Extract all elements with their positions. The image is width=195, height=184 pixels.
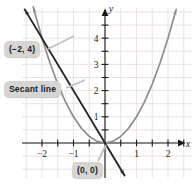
svg-text:2: 2 [94,86,99,96]
svg-text:2: 2 [166,149,171,159]
x-axis-label: x [185,138,191,149]
axis-ticks [42,25,184,146]
callout-secant-line: Secant line [4,81,61,97]
callout-point-a: (−2, 4) [4,41,40,57]
x-axis-arrow-icon [178,140,186,147]
callout-origin-point: (0, 0) [72,162,103,178]
svg-text:−2: −2 [37,149,47,159]
svg-text:−1: −1 [68,149,78,159]
svg-text:1: 1 [134,149,139,159]
svg-text:4: 4 [94,34,99,44]
y-axis-label: y [108,3,114,14]
svg-text:3: 3 [94,60,99,70]
graph-figure: −2−1121234 x y (−2, 4) Secant line (0, 0… [0,0,195,184]
svg-text:1: 1 [94,112,99,122]
